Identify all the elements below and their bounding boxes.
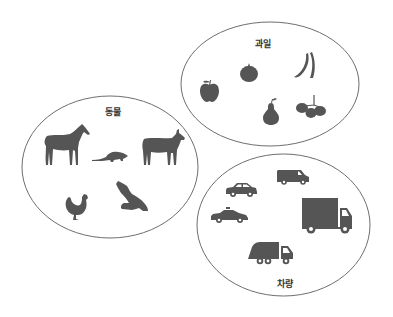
grouping-diagram: 과일 [0,0,393,317]
group-animals: 동물 [22,96,198,238]
animals-label: 동물 [105,107,121,117]
group-vehicles: 차량 [197,154,370,296]
fruits-label: 과일 [255,38,271,49]
group-fruits: 과일 [181,22,359,146]
animals-ellipse [22,96,198,238]
vehicles-label: 차량 [277,278,294,289]
